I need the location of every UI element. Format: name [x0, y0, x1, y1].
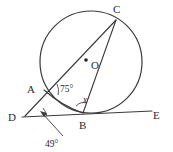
label-point-a: A [27, 83, 35, 95]
line-dc-through-a [25, 20, 116, 116]
label-point-e: E [153, 109, 160, 121]
label-center-o: O [91, 59, 99, 71]
label-point-b: B [79, 119, 86, 131]
center-point-dot [84, 58, 88, 62]
label-angle-x: x [82, 95, 88, 105]
leader-line-49 [43, 114, 63, 136]
label-angle-75: 75° [60, 84, 74, 94]
line-bc-chord [83, 20, 116, 113]
geometry-diagram: C A B D E O 75° x 49° [0, 0, 173, 152]
angle-arc-at-a [57, 84, 59, 95]
label-angle-49: 49° [45, 139, 59, 149]
geometry-figure-svg: C A B D E O 75° x 49° [0, 0, 173, 152]
label-point-c: C [113, 3, 120, 15]
label-point-d: D [8, 111, 16, 123]
